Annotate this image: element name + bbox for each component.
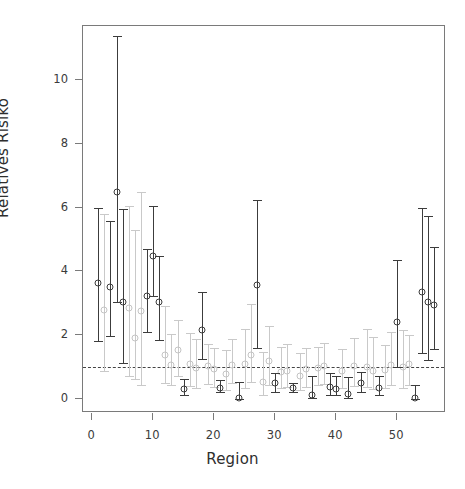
error-bar-cap (314, 385, 323, 386)
error-bar-cap (418, 208, 427, 209)
error-bar-cap (137, 192, 146, 193)
error-bar-cap (222, 350, 231, 351)
error-bar-cap (174, 320, 183, 321)
data-point-marker (180, 386, 187, 393)
error-bar (104, 214, 105, 371)
error-bar-cap (235, 382, 244, 383)
data-point-marker (235, 395, 242, 402)
error-bar-cap (430, 349, 439, 350)
data-point-marker (284, 367, 291, 374)
error-bar-cap (222, 390, 231, 391)
error-bar-cap (289, 392, 298, 393)
data-point-marker (296, 372, 303, 379)
data-point-marker (339, 367, 346, 374)
data-point-marker (406, 360, 413, 367)
error-bar-cap (405, 335, 414, 336)
error-bar-cap (210, 348, 219, 349)
error-bar (98, 208, 99, 342)
error-bar-cap (296, 390, 305, 391)
error-bar-cap (381, 345, 390, 346)
error-bar-cap (204, 344, 213, 345)
y-axis-title: Relatives Risiko (0, 98, 12, 218)
error-bar-cap (106, 336, 115, 337)
data-point-marker (357, 379, 364, 386)
y-tick-mark (75, 334, 82, 335)
error-bar (153, 206, 154, 296)
x-tick-mark (152, 413, 153, 420)
error-bar-cap (332, 376, 341, 377)
error-bar-cap (344, 377, 353, 378)
error-bar-cap (399, 388, 408, 389)
error-bar-cap (155, 256, 164, 257)
error-bar-cap (180, 379, 189, 380)
error-bar-cap (259, 395, 268, 396)
data-point-marker (302, 366, 309, 373)
error-bar-cap (430, 247, 439, 248)
data-point-marker (223, 370, 230, 377)
data-point-marker (229, 362, 236, 369)
y-tick-mark (75, 270, 82, 271)
error-bar-cap (424, 216, 433, 217)
y-tick-label: 4 (34, 263, 68, 277)
error-bar-cap (198, 359, 207, 360)
error-bar (434, 247, 435, 349)
y-tick-mark (75, 207, 82, 208)
data-point-marker (198, 327, 205, 334)
error-bar-cap (125, 376, 134, 377)
data-point-marker (375, 385, 382, 392)
y-tick-mark (75, 143, 82, 144)
error-bar-cap (131, 379, 140, 380)
error-bar-cap (375, 376, 384, 377)
y-tick-label: 8 (34, 136, 68, 150)
error-bar-cap (167, 334, 176, 335)
error-bar-cap (350, 386, 359, 387)
data-point-marker (369, 368, 376, 375)
y-tick-label: 0 (34, 391, 68, 405)
error-bar (397, 260, 398, 367)
data-point-marker (156, 299, 163, 306)
error-bar-cap (180, 395, 189, 396)
data-point-marker (381, 367, 388, 374)
error-bar (129, 206, 130, 376)
error-bar-cap (283, 344, 292, 345)
y-tick-mark (75, 79, 82, 80)
data-point-marker (272, 380, 279, 387)
x-tick-mark (213, 413, 214, 420)
error-bar-cap (198, 292, 207, 293)
error-bar (141, 192, 142, 385)
data-point-marker (192, 365, 199, 372)
x-tick-label: 30 (267, 428, 282, 442)
error-bar-cap (100, 214, 109, 215)
error-bar-cap (137, 385, 146, 386)
data-point-marker (125, 304, 132, 311)
data-point-marker (113, 188, 120, 195)
error-bar-cap (332, 395, 341, 396)
data-point-marker (308, 391, 315, 398)
error-bar-cap (375, 395, 384, 396)
error-bar-cap (302, 348, 311, 349)
error-bar-cap (204, 384, 213, 385)
error-bar-cap (113, 36, 122, 37)
error-bar (196, 339, 197, 388)
error-bar-cap (131, 230, 140, 231)
data-point-marker (345, 390, 352, 397)
data-point-marker (211, 366, 218, 373)
error-bar-cap (314, 347, 323, 348)
error-bar-cap (363, 329, 372, 330)
error-bar-cap (119, 209, 128, 210)
error-bar-cap (393, 260, 402, 261)
error-bar (147, 249, 148, 332)
error-bar (287, 344, 288, 387)
error-bar (135, 230, 136, 379)
data-point-marker (430, 301, 437, 308)
data-point-marker (162, 351, 169, 358)
error-bar-cap (271, 392, 280, 393)
error-bar-cap (393, 367, 402, 368)
error-bar (202, 292, 203, 359)
error-bar (171, 334, 172, 385)
error-bar-cap (155, 340, 164, 341)
error-bar (269, 326, 270, 385)
error-bar-cap (308, 376, 317, 377)
error-bar-cap (174, 376, 183, 377)
data-point-marker (107, 283, 114, 290)
